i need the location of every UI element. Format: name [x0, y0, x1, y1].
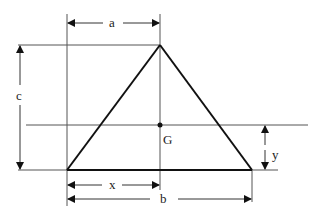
dimension-label-x: x	[109, 178, 116, 191]
dimension-label-c: c	[16, 89, 22, 102]
triangle-diagram	[0, 0, 321, 216]
centroid-point	[158, 123, 163, 128]
dimension-label-y: y	[272, 148, 279, 161]
dimension-label-a: a	[109, 16, 115, 29]
dimension-label-b: b	[160, 192, 167, 205]
centroid-label-G: G	[163, 133, 172, 146]
